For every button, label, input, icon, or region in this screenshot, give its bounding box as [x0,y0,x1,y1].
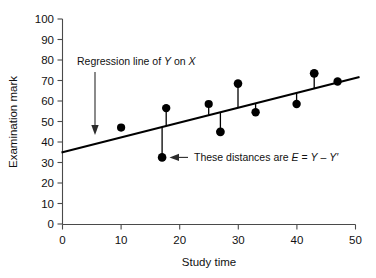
y-tick-label-90: 90 [41,34,54,46]
data-point [216,127,225,136]
annot-res-part-minus: – [317,151,329,163]
x-tick-label-0: 0 [59,234,65,246]
x-tick-label-40: 40 [291,234,304,246]
annot-res-part-eq: = [298,151,310,163]
data-point [205,100,213,108]
annot-res-part-a: These distances are [194,151,291,163]
annot-reg-part-on: on [171,55,189,67]
y-tick-label-30: 30 [41,157,54,169]
y-tick-label-70: 70 [41,75,54,87]
y-axis: 100 90 80 70 60 50 40 30 20 10 0 [35,13,63,230]
x-tick-label-10: 10 [115,234,128,246]
y-tick-label-0: 0 [48,218,54,230]
residual-annotation-text: These distances are E = Y – Y′ [194,151,339,163]
y-tick-label-100: 100 [35,13,54,25]
data-point [333,77,341,85]
residual-annotation: These distances are E = Y – Y′ [170,151,340,163]
x-tick-label-20: 20 [173,234,186,246]
data-point [162,104,170,112]
y-tick-label-50: 50 [41,116,54,128]
y-tick-label-40: 40 [41,136,54,148]
data-point [117,124,125,132]
data-point [251,108,259,116]
regression-scatter-figure: 100 90 80 70 60 50 40 30 20 10 0 0 10 20… [0,0,376,278]
regression-line [63,77,359,152]
annot-reg-part-x: X [188,55,197,67]
data-point [292,100,300,108]
x-axis-title: Study time [182,256,236,268]
annot-reg-part-a: Regression line of [77,55,164,67]
annot-res-part-y2: Y′ [329,151,339,163]
data-points [117,69,342,162]
x-tick-label-30: 30 [232,234,245,246]
y-tick-label-20: 20 [41,177,54,189]
data-point [234,79,243,88]
y-tick-label-10: 10 [41,198,54,210]
residual-annotation-arrow-head [170,154,180,161]
data-point [310,69,319,78]
chart-canvas: 100 90 80 70 60 50 40 30 20 10 0 0 10 20… [0,0,376,278]
x-tick-label-50: 50 [349,234,362,246]
y-tick-label-80: 80 [41,54,54,66]
regression-annotation-text: Regression line of Y on X [77,55,197,67]
data-point [158,153,167,162]
y-tick-label-60: 60 [41,95,54,107]
y-axis-title: Examination mark [7,76,19,168]
x-axis: 0 10 20 30 40 50 [59,225,362,247]
regression-annotation-arrow-head [91,125,98,135]
